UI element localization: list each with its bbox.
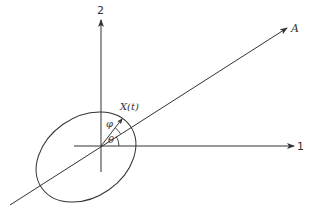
phi-label: φ (106, 118, 113, 129)
axis-2-label: 2 (97, 4, 104, 17)
ellipse-diagram: 1 2 A X(t) θ φ (0, 0, 313, 213)
vector-x-label: X(t) (119, 101, 139, 112)
axis-1-label: 1 (297, 140, 304, 153)
ray-a (10, 28, 287, 205)
theta-arc (116, 136, 119, 146)
phi-arc (115, 128, 120, 134)
ray-a-label: A (290, 22, 299, 35)
theta-label: θ (108, 134, 114, 145)
